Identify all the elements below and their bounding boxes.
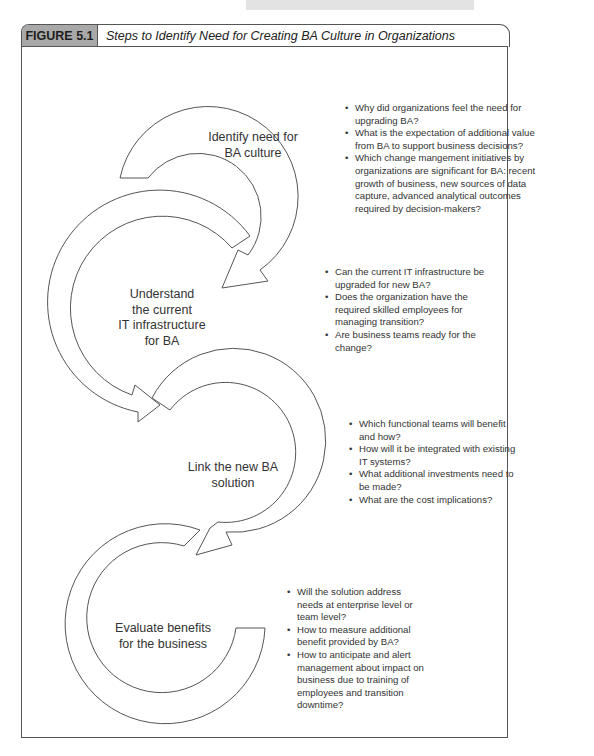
question-item: What are the cost implications? bbox=[349, 494, 519, 507]
question-item: Will the solution address needs at enter… bbox=[287, 586, 427, 624]
step-2-line-3: IT infrastructure bbox=[102, 318, 222, 334]
step-label-identify-need: Identify need for BA culture bbox=[198, 130, 308, 161]
step-2-questions: Can the current IT infrastructure be upg… bbox=[325, 266, 500, 354]
question-item: Does the organization have the required … bbox=[325, 291, 500, 329]
step-2-line-2: the current bbox=[102, 303, 222, 319]
step-label-link-solution: Link the new BA solution bbox=[178, 460, 288, 491]
question-item: Why did organizations feel the need for … bbox=[345, 102, 555, 127]
question-item: Which change mangement initiatives by or… bbox=[345, 152, 555, 215]
question-item: Are business teams ready for the change? bbox=[325, 329, 500, 354]
question-item: Can the current IT infrastructure be upg… bbox=[325, 266, 500, 291]
step-3-line-1: Link the new BA bbox=[178, 460, 288, 476]
step-2-line-1: Understand bbox=[102, 287, 222, 303]
step-3-line-2: solution bbox=[178, 476, 288, 492]
step-label-understand-it: Understand the current IT infrastructure… bbox=[102, 287, 222, 349]
step-label-evaluate-benefits: Evaluate benefits for the business bbox=[108, 621, 218, 652]
step-4-questions: Will the solution address needs at enter… bbox=[287, 586, 427, 712]
step-3-questions: Which functional teams will benefit and … bbox=[349, 418, 519, 506]
step-1-line-2: BA culture bbox=[198, 146, 308, 162]
step-1-questions: Why did organizations feel the need for … bbox=[345, 102, 555, 215]
step-4-line-2: for the business bbox=[108, 637, 218, 653]
question-item: What additional investments need to be m… bbox=[349, 468, 519, 493]
question-item: What is the expectation of additional va… bbox=[345, 127, 555, 152]
question-item: How will it be integrated with existing … bbox=[349, 443, 519, 468]
step-2-line-4: for BA bbox=[102, 334, 222, 350]
step-1-line-1: Identify need for bbox=[198, 130, 308, 146]
arrow-step-3 bbox=[152, 348, 326, 555]
question-item: How to measure additional benefit provid… bbox=[287, 624, 427, 649]
question-item: How to anticipate and alert management a… bbox=[287, 649, 427, 712]
step-4-line-1: Evaluate benefits bbox=[108, 621, 218, 637]
question-item: Which functional teams will benefit and … bbox=[349, 418, 519, 443]
